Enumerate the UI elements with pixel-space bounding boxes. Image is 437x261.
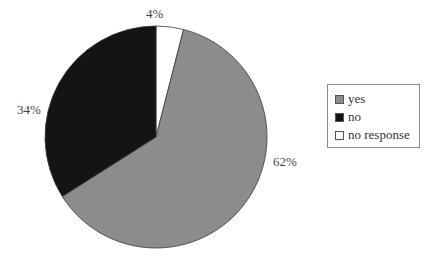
slice-label-no-response: 4% — [146, 6, 164, 21]
pie-slices — [45, 26, 267, 248]
slice-label-no: 34% — [17, 102, 41, 117]
legend-item-no: no — [335, 109, 361, 125]
legend-label-no-response: no response — [348, 127, 410, 143]
legend-swatch-yes — [335, 95, 344, 104]
legend-label-no: no — [348, 109, 361, 125]
slice-label-yes: 62% — [273, 154, 297, 169]
legend-item-yes: yes — [335, 91, 365, 107]
legend-swatch-no-response — [335, 131, 344, 140]
chart-legend: yes no no response — [327, 84, 420, 148]
legend-item-no-response: no response — [335, 127, 410, 143]
legend-swatch-no — [335, 113, 344, 122]
legend-label-yes: yes — [348, 91, 365, 107]
